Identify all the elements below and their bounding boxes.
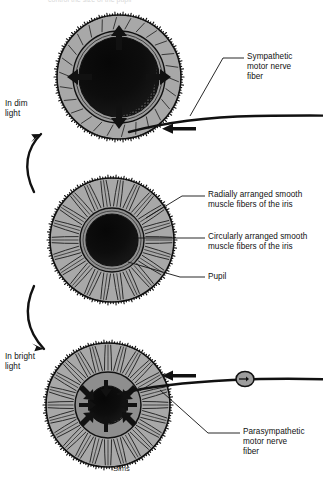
callout-circular-muscle: Circularly arranged smooth muscle fibers… [208,232,307,252]
parasympathetic-flow-arrow [162,371,196,381]
callout-sympathetic: Sympathetic motor nerve fiber [247,52,293,83]
label-in-dim-light: In dim light [5,99,28,119]
ganglion-icon [236,372,254,387]
sympathetic-leader [190,58,244,116]
iris-dilated [54,12,184,142]
label-in-bright-light: In bright light [5,352,35,372]
iris-neutral [47,175,177,305]
transition-to-bright [28,286,44,353]
callout-radial-muscle: Radially arranged smooth muscle fibers o… [208,190,302,210]
iris-constricted [43,340,173,470]
sympathetic-flow-arrow [162,124,196,134]
transition-to-dim [27,132,41,192]
figure-canvas: control the size of the pupil In dim lig… [0,0,323,482]
artist-signature: Sims [113,464,130,473]
cropped-figure-title: control the size of the pupil [48,0,131,3]
callout-pupil: Pupil [208,272,226,282]
callout-parasympathetic: Parasympathetic motor nerve fiber [243,427,305,458]
